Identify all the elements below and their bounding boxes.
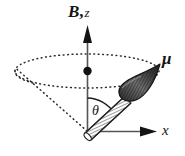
field-vector-symbol: B [68, 2, 79, 21]
mu-vector-head-hatching [119, 64, 160, 101]
x-axis-label: x [162, 123, 169, 138]
z-axis-symbol: z [85, 5, 90, 20]
theta-angle-label: θ [92, 104, 99, 118]
cone-center-dot [83, 67, 91, 75]
mu-vector-label: μ [162, 50, 171, 67]
precession-diagram-canvas [0, 0, 185, 156]
cone-slant-left [16, 68, 88, 131]
field-axis-label: B,z [68, 3, 90, 20]
z-axis-arrowhead [83, 25, 92, 43]
precession-diagram: B,z μ x θ [0, 0, 185, 156]
z-axis-arrow [83, 25, 92, 133]
x-axis-arrowhead [140, 127, 157, 137]
